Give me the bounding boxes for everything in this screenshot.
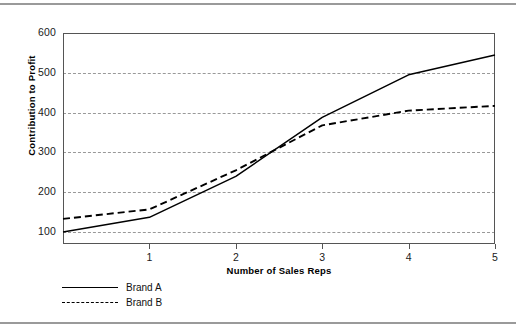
x-axis-tick-mark [409,244,410,249]
x-axis-tick-mark [149,244,150,249]
x-axis-tick-label: 4 [394,251,424,263]
legend-label-brand-a: Brand A [126,281,162,295]
x-axis-title: Number of Sales Reps [63,265,495,276]
x-axis-tick-label: 5 [480,251,510,263]
x-axis-tick-label: 2 [221,251,251,263]
x-axis-tick-label: 1 [134,251,164,263]
y-axis-tick-label: 100 [10,226,56,237]
y-axis-tick-label: 200 [10,186,56,197]
y-axis-title: Contribution to Profit [26,31,37,181]
x-axis-tick-mark [495,244,496,249]
plot-area-frame [63,33,495,244]
legend-item-brand-a: Brand A [62,281,262,296]
legend-label-brand-b: Brand B [126,296,162,310]
line-chart-figure: 100200300400500600 12345 Contribution to… [0,0,516,332]
legend-item-brand-b: Brand B [62,296,262,311]
x-axis-tick-label: 3 [307,251,337,263]
x-axis-tick-mark [236,244,237,249]
chart-legend: Brand A Brand B [62,281,262,311]
legend-swatch-solid-icon [62,287,118,288]
legend-swatch-dashed-icon [62,302,118,303]
x-axis-tick-mark [322,244,323,249]
page: 100200300400500600 12345 Contribution to… [0,0,516,332]
